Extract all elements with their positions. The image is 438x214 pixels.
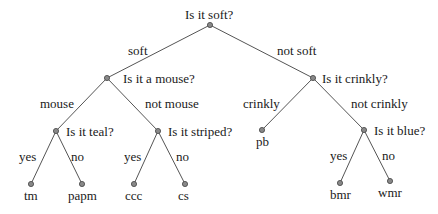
- node-q_mouse: [104, 75, 109, 80]
- decision-tree: softnot softmousenot mousecrinklynot cri…: [0, 0, 438, 214]
- edge-label: yes: [19, 149, 36, 164]
- node-label: pb: [256, 134, 269, 149]
- node-ccc: [131, 181, 136, 186]
- node-label: Is it striped?: [168, 124, 232, 139]
- node-q_blue: [361, 127, 366, 132]
- edge-label: no: [176, 149, 189, 164]
- node-q_crinkly: [310, 75, 315, 80]
- node-label: ccc: [125, 188, 143, 203]
- node-label: Is it teal?: [66, 124, 114, 139]
- node-root: [207, 22, 212, 27]
- node-label: Is it a mouse?: [123, 71, 195, 86]
- node-label: cs: [178, 188, 189, 203]
- edge-label: no: [71, 149, 84, 164]
- edge-label: yes: [330, 148, 347, 163]
- edge-label: not crinkly: [351, 96, 408, 111]
- edge-label: not mouse: [145, 96, 199, 111]
- edge-labels: softnot softmousenot mousecrinklynot cri…: [19, 43, 408, 164]
- node-label: tm: [24, 188, 38, 203]
- node-label: wmr: [378, 185, 403, 200]
- node-papm: [79, 181, 84, 186]
- edge-label: crinkly: [243, 96, 280, 111]
- node-q_teal: [53, 128, 58, 133]
- node-pb: [259, 127, 264, 132]
- edge-label: yes: [124, 149, 141, 164]
- node-wmr: [387, 178, 392, 183]
- node-label: Is it crinkly?: [322, 71, 388, 86]
- node-cs: [182, 181, 187, 186]
- node-label: Is it soft?: [185, 7, 234, 22]
- edge-label: not soft: [277, 43, 317, 58]
- node-label: Is it blue?: [374, 123, 425, 138]
- node-bmr: [337, 180, 342, 185]
- node-tm: [28, 181, 33, 186]
- edge-label: soft: [128, 43, 148, 58]
- node-label: papm: [68, 188, 97, 203]
- node-q_striped: [155, 128, 160, 133]
- edge-label: no: [382, 148, 395, 163]
- edge-label: mouse: [40, 96, 74, 111]
- node-label: bmr: [330, 187, 352, 202]
